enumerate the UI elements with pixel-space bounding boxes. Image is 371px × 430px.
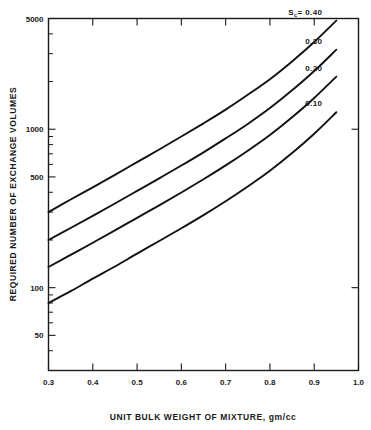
curve-sc-0-30 (49, 50, 337, 240)
x-tick-label: 0.3 (43, 378, 55, 387)
y-tick-label: 100 (30, 284, 44, 293)
curve-sc-0-10 (49, 112, 337, 303)
y-axis-tick-labels: 5010050010005000 (26, 15, 44, 341)
x-tick-label: 0.8 (264, 378, 276, 387)
x-tick-label: 0.6 (176, 378, 188, 387)
y-axis-title: REQUIRED NUMBER OF EXCHANGE VOLUMES (8, 87, 18, 302)
series-annotation-sc-040: Sc= 0.40 (288, 8, 322, 18)
data-series-group (49, 21, 337, 303)
chart-container: 5010050010005000 0.30.40.50.60.70.80.91.… (0, 0, 371, 430)
y-tick-label: 1000 (26, 125, 44, 134)
series-annotation-sc-0-20: 0.20 (305, 64, 322, 73)
line-chart: 5010050010005000 0.30.40.50.60.70.80.91.… (0, 0, 371, 430)
y-tick-label: 500 (30, 173, 44, 182)
x-axis-tick-labels: 0.30.40.50.60.70.80.91.0 (43, 378, 365, 387)
x-tick-label: 0.5 (132, 378, 144, 387)
x-tick-label: 0.9 (309, 378, 321, 387)
x-axis-title: UNIT BULK WEIGHT OF MIXTURE, gm/cc (110, 412, 297, 422)
y-tick-label: 50 (35, 331, 44, 340)
series-annotations: Sc= 0.400.300.200.10 (288, 8, 322, 109)
x-tick-label: 0.7 (220, 378, 232, 387)
series-annotation-sc-0-30: 0.30 (305, 37, 322, 46)
series-annotation-sc-0-10: 0.10 (305, 99, 322, 108)
curve-sc-0-20 (49, 77, 337, 267)
y-tick-label: 5000 (26, 15, 44, 24)
x-tick-label: 1.0 (353, 378, 365, 387)
x-tick-label: 0.4 (87, 378, 99, 387)
